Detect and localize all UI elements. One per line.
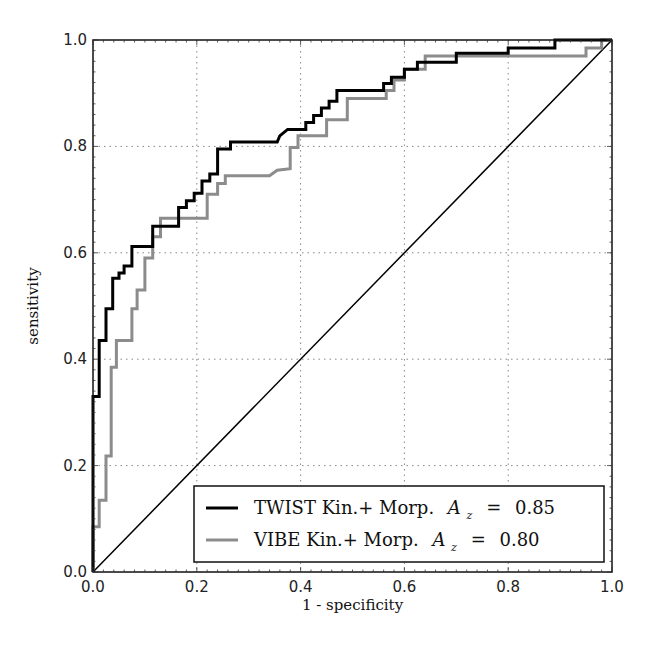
y-tick-label: 0.4 (63, 350, 87, 368)
x-tick-label: 1.0 (600, 578, 624, 596)
y-tick-label: 0.2 (63, 457, 87, 475)
y-tick-label: 0.8 (63, 137, 87, 155)
x-tick-label: 0.6 (392, 578, 416, 596)
x-axis-label: 1 - specificity (302, 596, 404, 614)
y-tick-label: 1.0 (63, 31, 87, 49)
x-tick-label: 0.4 (289, 578, 313, 596)
x-axis-ticks: 0.00.20.40.60.81.0 (81, 578, 624, 596)
y-axis-label: sensitivity (24, 267, 42, 345)
y-tick-label: 0.0 (63, 563, 87, 581)
roc-chart: 0.00.20.40.60.81.0 0.00.20.40.60.81.0 1 … (0, 0, 653, 649)
x-tick-label: 0.2 (185, 578, 209, 596)
x-tick-label: 0.8 (496, 578, 520, 596)
y-tick-label: 0.6 (63, 244, 87, 262)
y-axis-ticks: 0.00.20.40.60.81.0 (63, 31, 87, 581)
legend: TWIST Kin.+ Morp. A z = 0.85 VIBE Kin.+ … (194, 486, 604, 562)
